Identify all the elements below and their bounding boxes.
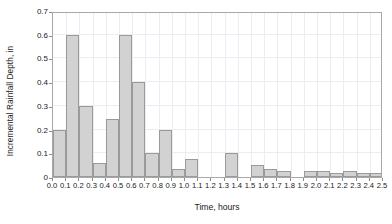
gridline-vertical: [172, 13, 173, 177]
gridline-horizontal: [53, 81, 381, 82]
gridline-vertical: [304, 13, 305, 177]
gridline-vertical: [277, 13, 278, 177]
bar: [159, 130, 172, 177]
y-axis-tick-labels: 00.10.20.30.40.50.60.7: [12, 12, 48, 178]
y-axis-tick-label: 0.4: [14, 79, 48, 87]
bar: [53, 130, 66, 177]
y-axis-tick-label: 0.7: [14, 8, 48, 16]
x-axis-tick-label: 2.5: [371, 181, 392, 191]
bar: [277, 171, 290, 177]
gridline-horizontal: [53, 57, 381, 58]
gridline-vertical: [198, 13, 199, 177]
bar: [251, 165, 264, 177]
bar: [357, 173, 370, 177]
gridline-horizontal: [53, 34, 381, 35]
bar: [225, 153, 238, 177]
gridline-vertical: [317, 13, 318, 177]
bar: [66, 35, 79, 177]
bar: [330, 173, 343, 177]
gridline-vertical: [370, 13, 371, 177]
bar: [185, 159, 198, 177]
gridline-horizontal: [53, 152, 381, 153]
gridline-horizontal: [53, 105, 381, 106]
gridline-vertical: [264, 13, 265, 177]
y-axis-tick-label: 0.2: [14, 127, 48, 135]
y-axis-tick-label: 0.1: [14, 150, 48, 158]
gridline-vertical: [251, 13, 252, 177]
bar: [304, 171, 317, 177]
rainfall-histogram-figure: Incremental Rainfall Depth, in 00.10.20.…: [0, 0, 392, 224]
bar: [317, 171, 330, 177]
gridline-vertical: [211, 13, 212, 177]
x-axis-title: Time, hours: [52, 202, 382, 212]
gridline-vertical: [238, 13, 239, 177]
bar: [145, 153, 158, 177]
gridline-vertical: [343, 13, 344, 177]
x-axis-tick-labels: 0.00.10.20.30.40.50.60.70.80.91.01.11.21…: [52, 181, 382, 195]
bar: [106, 119, 119, 177]
bar: [119, 35, 132, 177]
bar: [132, 82, 145, 177]
y-axis-tick-label: 0.5: [14, 55, 48, 63]
bar: [370, 173, 382, 177]
gridline-vertical: [93, 13, 94, 177]
y-axis-tick-label: 0.6: [14, 32, 48, 40]
bar: [343, 171, 356, 177]
gridline-vertical: [291, 13, 292, 177]
gridline-vertical: [357, 13, 358, 177]
bar: [93, 163, 106, 177]
bar: [264, 169, 277, 177]
y-axis-tick-label: 0.3: [14, 103, 48, 111]
gridline-vertical: [330, 13, 331, 177]
gridline-vertical: [185, 13, 186, 177]
bar: [172, 169, 185, 177]
gridline-horizontal: [53, 129, 381, 130]
bar: [79, 106, 92, 177]
plot-area: [52, 12, 382, 178]
